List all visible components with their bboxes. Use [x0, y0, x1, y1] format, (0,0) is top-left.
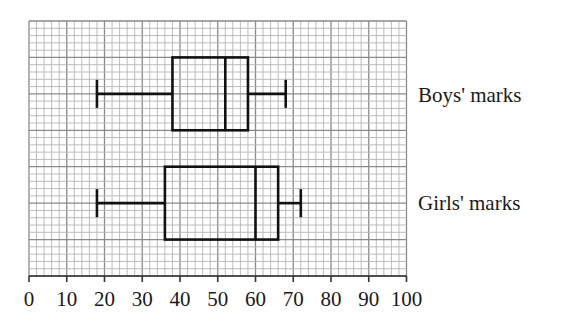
girls-label: Girls' marks	[418, 191, 520, 215]
x-tick-label: 10	[56, 287, 77, 311]
x-tick-label: 100	[391, 287, 423, 311]
x-tick-label: 50	[207, 287, 228, 311]
graph-paper-grid	[29, 21, 407, 276]
x-tick-label: 80	[321, 287, 342, 311]
boys-label: Boys' marks	[418, 83, 522, 107]
x-axis: 0102030405060708090100	[24, 276, 423, 311]
x-tick-label: 70	[283, 287, 304, 311]
x-tick-label: 30	[132, 287, 153, 311]
x-tick-label: 20	[94, 287, 115, 311]
x-tick-label: 0	[24, 287, 35, 311]
x-tick-label: 40	[170, 287, 191, 311]
x-tick-label: 90	[358, 287, 379, 311]
boxplot-chart: 0102030405060708090100 Boys' marks Girls…	[0, 0, 576, 327]
x-tick-label: 60	[245, 287, 266, 311]
